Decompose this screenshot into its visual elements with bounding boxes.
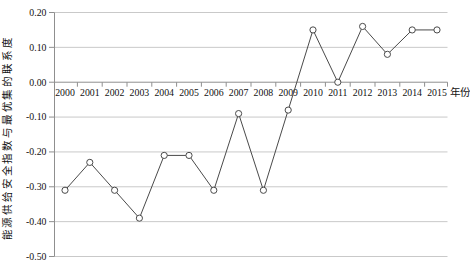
data-point-2011 <box>335 79 341 85</box>
x-tick-label-2005: 2005 <box>179 87 199 98</box>
y-tick-label: -0.40 <box>26 216 47 227</box>
x-tick-label-2006: 2006 <box>204 87 224 98</box>
data-point-2007 <box>236 110 242 116</box>
x-tick-label-2002: 2002 <box>105 87 125 98</box>
x-tick-label-2012: 2012 <box>353 87 373 98</box>
data-point-2012 <box>360 23 366 29</box>
y-tick-label: -0.50 <box>26 251 47 262</box>
data-point-2005 <box>186 152 192 158</box>
x-axis-title: 年份 <box>450 86 470 98</box>
line-chart-canvas: 0.200.100.00-0.10-0.20-0.30-0.40-0.50200… <box>0 0 470 273</box>
y-tick-label: -0.20 <box>26 146 47 157</box>
data-point-2014 <box>409 27 415 33</box>
x-tick-label-2008: 2008 <box>254 87 274 98</box>
x-tick-label-2003: 2003 <box>130 87 150 98</box>
x-tick-label-2007: 2007 <box>229 87 249 98</box>
data-point-2002 <box>112 187 118 193</box>
y-tick-label: 0.20 <box>29 7 46 18</box>
data-point-2010 <box>310 27 316 33</box>
y-tick-label: -0.10 <box>26 111 47 122</box>
data-point-2013 <box>384 51 390 57</box>
data-point-2003 <box>136 215 142 221</box>
x-tick-label-2004: 2004 <box>154 87 174 98</box>
data-point-2004 <box>161 152 167 158</box>
x-tick-label-2014: 2014 <box>402 87 422 98</box>
data-point-2008 <box>260 187 266 193</box>
y-tick-label: 0.10 <box>29 42 46 53</box>
energy-supply-security-line-chart-figure: 0.200.100.00-0.10-0.20-0.30-0.40-0.50200… <box>0 0 470 273</box>
data-point-2015 <box>434 27 440 33</box>
x-tick-label-2015: 2015 <box>427 87 447 98</box>
x-tick-label-2001: 2001 <box>80 87 100 98</box>
x-tick-label-2010: 2010 <box>303 87 323 98</box>
x-tick-label-2000: 2000 <box>55 87 75 98</box>
data-point-2001 <box>87 159 93 165</box>
y-axis-title: 能源供给安全指数与最优集的联系度 <box>1 36 13 241</box>
data-point-2009 <box>285 107 291 113</box>
data-point-2000 <box>62 187 68 193</box>
x-tick-label-2013: 2013 <box>378 87 398 98</box>
data-line <box>65 26 437 218</box>
data-point-2006 <box>211 187 217 193</box>
x-tick-label-2011: 2011 <box>328 87 347 98</box>
y-tick-label: 0.00 <box>29 77 46 88</box>
y-tick-label: -0.30 <box>26 181 47 192</box>
